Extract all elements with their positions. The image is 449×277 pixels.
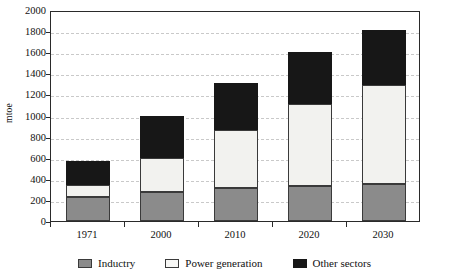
bar-2000	[140, 10, 184, 221]
stacked-bar-chart: mtoe 02004006008001000120014001600180020…	[0, 0, 449, 277]
legend-label: Inductry	[98, 258, 135, 269]
x-axis-tick-label: 2030	[348, 229, 418, 240]
x-axis: 19712000201020202030	[50, 222, 420, 248]
legend-label: Power generation	[185, 258, 262, 269]
plot-area	[50, 11, 420, 222]
bar-segment-power-generation	[140, 158, 184, 192]
bar-1971	[66, 10, 110, 221]
bar-segment-power-generation	[214, 130, 258, 188]
power-generation-swatch	[165, 259, 179, 268]
other-sectors-swatch	[293, 259, 307, 268]
x-axis-tick-mark	[124, 222, 125, 227]
legend-item-power-generation: Power generation	[165, 258, 262, 269]
x-axis-tick-mark	[272, 222, 273, 227]
bar-2020	[288, 10, 332, 221]
bar-segment-power-generation	[66, 185, 110, 197]
bar-segment-other-sectors	[288, 52, 332, 104]
x-axis-tick-mark	[346, 222, 347, 227]
x-axis-tick-mark	[198, 222, 199, 227]
industry-swatch	[78, 259, 92, 268]
bar-segment-industry	[140, 192, 184, 221]
bar-segment-industry	[66, 197, 110, 221]
bar-segment-other-sectors	[140, 116, 184, 158]
bar-2030	[362, 10, 406, 221]
chart-legend: InductryPower generationOther sectors	[0, 252, 449, 274]
bar-segment-other-sectors	[214, 83, 258, 130]
bar-segment-other-sectors	[66, 161, 110, 185]
y-axis-tick-marks	[0, 11, 51, 222]
bars-layer	[51, 12, 419, 221]
x-axis-tick-label: 2010	[200, 229, 270, 240]
x-axis-tick-label: 1971	[52, 229, 122, 240]
bar-segment-industry	[214, 188, 258, 221]
bar-segment-industry	[288, 186, 332, 221]
legend-item-industry: Inductry	[78, 258, 135, 269]
x-axis-tick-label: 2020	[274, 229, 344, 240]
x-axis-tick-mark	[50, 222, 51, 227]
bar-2010	[214, 10, 258, 221]
bar-segment-other-sectors	[362, 30, 406, 85]
bar-segment-power-generation	[288, 104, 332, 186]
legend-item-other-sectors: Other sectors	[293, 258, 371, 269]
bar-segment-power-generation	[362, 85, 406, 184]
legend-label: Other sectors	[313, 258, 371, 269]
x-axis-tick-label: 2000	[126, 229, 196, 240]
bar-segment-industry	[362, 184, 406, 221]
